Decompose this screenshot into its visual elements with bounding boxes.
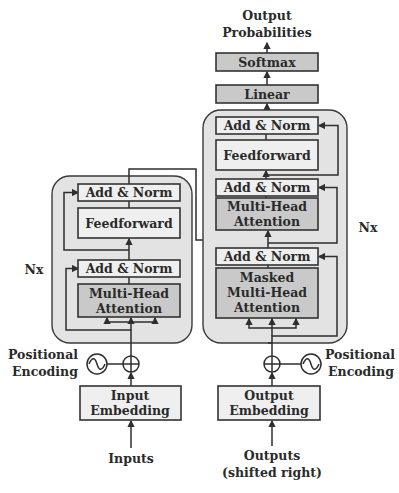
svg-text:Embedding: Embedding	[90, 403, 170, 418]
svg-text:Multi-Head: Multi-Head	[89, 286, 169, 301]
svg-text:Add & Norm: Add & Norm	[85, 185, 173, 200]
encoder-add-circle-icon	[123, 356, 139, 372]
linear-label: Linear	[244, 87, 290, 102]
svg-text:Multi-Head: Multi-Head	[227, 285, 307, 300]
svg-text:Attention: Attention	[95, 301, 162, 316]
encoder-add-norm-2: Add & Norm	[78, 184, 180, 201]
svg-text:Masked: Masked	[240, 270, 295, 285]
input-embedding-box: Input Embedding	[80, 386, 181, 420]
decoder-add-norm-2: Add & Norm	[216, 179, 318, 196]
decoder-repeat-label: Nx	[359, 220, 378, 235]
transformer-diagram: Output Probabilities Softmax Linear Nx A…	[0, 0, 399, 493]
decoder-add-circle-icon	[264, 356, 280, 372]
decoder-feedforward: Feedforward	[216, 140, 318, 170]
svg-text:Add & Norm: Add & Norm	[223, 249, 311, 264]
svg-text:Output: Output	[244, 388, 294, 403]
encoder-multi-head-attention: Multi-Head Attention	[78, 284, 180, 317]
encoder-positional-encoding-label-line1: Positional	[8, 347, 78, 362]
encoder-repeat-label: Nx	[25, 262, 44, 277]
svg-text:Attention: Attention	[233, 214, 300, 229]
decoder-add-norm-1: Add & Norm	[216, 248, 318, 265]
encoder-feedforward: Feedforward	[78, 208, 180, 238]
svg-text:Add & Norm: Add & Norm	[223, 118, 311, 133]
svg-text:Feedforward: Feedforward	[85, 216, 173, 231]
svg-text:Attention: Attention	[233, 300, 300, 315]
linear-box: Linear	[216, 85, 318, 103]
output-probabilities-label-line1: Output	[242, 8, 292, 23]
decoder-add-norm-3: Add & Norm	[216, 117, 318, 134]
softmax-label: Softmax	[238, 55, 296, 70]
svg-text:Embedding: Embedding	[229, 403, 309, 418]
decoder-masked-multi-head-attention: Masked Multi-Head Attention	[216, 268, 318, 318]
output-embedding-box: Output Embedding	[218, 386, 320, 420]
svg-text:Add & Norm: Add & Norm	[85, 261, 173, 276]
encoder-positional-encoding-label-line2: Encoding	[12, 364, 78, 379]
decoder-sine-wave-icon	[301, 354, 321, 374]
output-probabilities-label-line2: Probabilities	[222, 25, 312, 40]
decoder-multi-head-attention: Multi-Head Attention	[216, 198, 318, 230]
outputs-label-line2: (shifted right)	[222, 465, 322, 480]
svg-text:Feedforward: Feedforward	[223, 148, 311, 163]
decoder-positional-encoding-label-line1: Positional	[325, 347, 395, 362]
decoder-positional-encoding-label-line2: Encoding	[328, 364, 394, 379]
svg-text:Multi-Head: Multi-Head	[227, 199, 307, 214]
encoder-sine-wave-icon	[87, 354, 107, 374]
inputs-label: Inputs	[108, 451, 154, 466]
outputs-label-line1: Outputs	[244, 448, 300, 463]
svg-text:Input: Input	[111, 388, 150, 403]
svg-text:Add & Norm: Add & Norm	[223, 180, 311, 195]
softmax-box: Softmax	[216, 53, 318, 71]
encoder-add-norm-1: Add & Norm	[78, 260, 180, 277]
